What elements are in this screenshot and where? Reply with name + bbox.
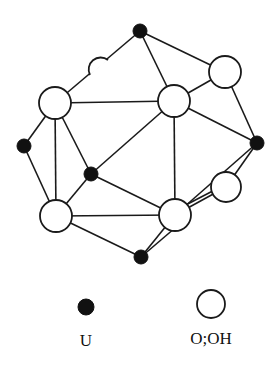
- oxygen-atom: [158, 85, 190, 117]
- uranium-atom: [17, 139, 31, 153]
- uranium-atom: [84, 167, 98, 181]
- uranyl-cluster-diagram: U O;OH: [0, 0, 279, 366]
- legend-uranium-label: U: [80, 331, 92, 350]
- oxygen-atom: [39, 87, 71, 119]
- legend-uranium-icon: [78, 299, 94, 315]
- uranium-atom: [133, 24, 147, 38]
- oxygen-atom: [159, 199, 191, 231]
- uranium-atom: [134, 250, 148, 264]
- legend-oxygen-icon: [197, 290, 225, 318]
- oxygen-atom: [211, 172, 241, 202]
- legend: U O;OH: [78, 290, 232, 350]
- oxygen-atom: [209, 56, 241, 88]
- legend-oxygen-label: O;OH: [190, 329, 232, 348]
- oxygen-atoms: [39, 56, 241, 232]
- oxygen-atom: [40, 200, 72, 232]
- hidden-oxygen-atom: [89, 57, 108, 75]
- uranium-atom: [250, 136, 264, 150]
